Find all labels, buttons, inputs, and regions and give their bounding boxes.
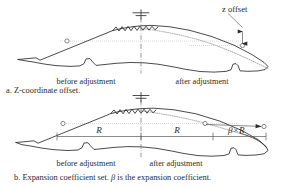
- panel-b-group: R R β×R before adjustment after adjustme…: [14, 93, 268, 183]
- panel-b-dim-left-label: R: [95, 125, 102, 135]
- panel-a-group: z offset before adjustment after adjustm…: [6, 4, 268, 96]
- figure-canvas: z offset before adjustment after adjustm…: [0, 0, 282, 187]
- panel-a-before-label: before adjustment: [57, 77, 117, 86]
- panel-b-expansion-dim-label: β×R: [227, 125, 245, 135]
- panel-b-expansion-beta: β: [227, 125, 233, 135]
- panel-b-node-right: [203, 121, 207, 125]
- panel-a-node-right: [240, 43, 244, 47]
- panel-a-caption: a. Z-coordinate offset.: [6, 86, 80, 95]
- panel-b-node-tip: [262, 124, 266, 128]
- panel-a-node-left: [65, 39, 69, 43]
- panel-a-outline: [18, 25, 268, 72]
- panel-a-offset-leader: [228, 14, 243, 28]
- technical-figure: z offset before adjustment after adjustm…: [0, 0, 282, 187]
- panel-a-after-label: after adjustment: [176, 77, 230, 86]
- panel-b-before-label: before adjustment: [57, 159, 117, 168]
- panel-b-caption: b. Expansion coefficient set. β is the e…: [14, 173, 211, 182]
- panel-b-tip-expansion-curve: [240, 133, 266, 147]
- panel-b-expansion-radius: R: [238, 125, 245, 135]
- panel-a-z-offset-label: z offset: [222, 4, 248, 14]
- panel-b-node-left: [61, 121, 65, 125]
- panel-b-expansion-operator: ×: [233, 125, 238, 135]
- panel-b-dim-right-label: R: [173, 125, 180, 135]
- panel-b-caption-tail: is the expansion coefficient.: [115, 173, 211, 182]
- panel-b-caption-lead: b. Expansion coefficient set.: [14, 173, 111, 182]
- panel-b-dotted-profile: [141, 111, 240, 134]
- panel-b-after-label: after adjustment: [150, 159, 204, 168]
